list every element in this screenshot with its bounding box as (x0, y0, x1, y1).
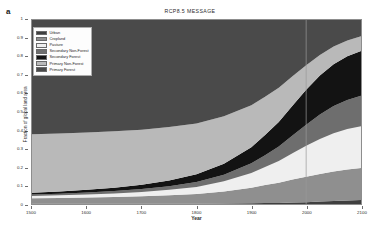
y-tick-mark (25, 186, 28, 187)
y-tick-mark (25, 38, 28, 39)
legend-swatch-icon (36, 61, 47, 66)
y-tick-label: 0.9 (17, 35, 23, 39)
y-axis-label: Fraction of global land area (24, 54, 29, 174)
legend-swatch-icon (36, 55, 47, 60)
x-tick-label: 1600 (81, 211, 91, 215)
legend-item-label: Pasture (50, 43, 63, 47)
y-tick-mark (25, 205, 28, 206)
x-tick-mark (31, 206, 32, 209)
legend-item-label: Cropland (50, 37, 66, 41)
legend-swatch-icon (36, 31, 47, 36)
y-tick-label: 0.2 (17, 166, 23, 170)
y-tick-label: 1 (21, 17, 23, 21)
x-tick-mark (362, 206, 363, 209)
x-tick-label: 2100 (357, 211, 367, 215)
x-tick-mark (86, 206, 87, 209)
x-tick-label: 1700 (136, 211, 146, 215)
legend-item-label: Primary Non-Forest (50, 62, 84, 66)
chart-title: RCP8.5 MESSAGE (0, 9, 380, 14)
legend-item: Primary Forest (36, 67, 88, 73)
legend-item-label: Secondary Non-Forest (50, 49, 89, 53)
x-tick-label: 1500 (26, 211, 36, 215)
x-tick-mark (197, 206, 198, 209)
x-tick-mark (307, 206, 308, 209)
legend-item-label: Primary Forest (50, 68, 76, 72)
legend-item-label: Urban (50, 31, 61, 35)
y-tick-label: 0.7 (17, 73, 23, 77)
legend: UrbanCroplandPastureSecondary Non-Forest… (33, 27, 92, 76)
x-tick-label: 1900 (247, 211, 257, 215)
legend-swatch-icon (36, 49, 47, 54)
legend-item-label: Secondary Forest (50, 55, 81, 59)
legend-swatch-icon (36, 37, 47, 42)
x-axis-label: Year (31, 216, 362, 221)
y-tick-label: 0.8 (17, 54, 23, 58)
figure-panel: a RCP8.5 MESSAGE 00.10.20.30.40.50.60.70… (0, 0, 380, 230)
y-tick-label: 0 (21, 203, 23, 207)
y-tick-label: 0.3 (17, 147, 23, 151)
x-tick-label: 2000 (302, 211, 312, 215)
legend-swatch-icon (36, 43, 47, 48)
y-tick-label: 0.1 (17, 184, 23, 188)
y-tick-mark (25, 19, 28, 20)
y-axis-label-container: Fraction of global land area (6, 19, 16, 205)
legend-swatch-icon (36, 67, 47, 72)
x-tick-mark (252, 206, 253, 209)
x-tick-mark (141, 206, 142, 209)
